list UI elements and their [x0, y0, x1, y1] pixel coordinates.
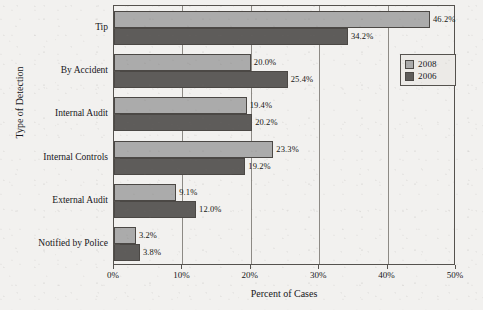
- bar-2008[interactable]: [114, 54, 251, 71]
- legend-label: 2008: [418, 59, 437, 69]
- bar-value-label: 23.3%: [276, 141, 298, 158]
- plot-area: 46.2%34.2%20.0%25.4%19.4%20.2%23.3%19.2%…: [113, 5, 455, 265]
- bar-value-label: 12.0%: [199, 201, 221, 218]
- bar-value-label: 20.0%: [254, 54, 276, 71]
- y-axis-tick: [114, 28, 120, 29]
- bar-2008[interactable]: [114, 227, 136, 244]
- y-axis-label-notified-by-police: Notified by Police: [38, 238, 108, 248]
- bar-2008[interactable]: [114, 141, 273, 158]
- x-axis-tick-label: 0%: [107, 270, 119, 280]
- bar-value-label: 46.2%: [433, 11, 455, 28]
- bars-layer: 46.2%34.2%20.0%25.4%19.4%20.2%23.3%19.2%…: [114, 6, 454, 264]
- bar-2008[interactable]: [114, 184, 176, 201]
- bar-2006[interactable]: [114, 244, 140, 261]
- x-axis-tick: [455, 265, 456, 269]
- bar-value-label: 3.2%: [139, 227, 157, 244]
- x-axis-tick-label: 40%: [378, 270, 395, 280]
- y-axis-tick: [114, 114, 120, 115]
- x-axis-title: Percent of Cases: [113, 288, 455, 299]
- legend-swatch-icon: [405, 60, 414, 69]
- bar-group: 3.2%3.8%: [114, 227, 454, 261]
- bar-value-label: 34.2%: [351, 28, 373, 45]
- legend-item-2006[interactable]: 2006: [405, 70, 451, 82]
- bar-chart-figure: Type of Detection TipBy AccidentInternal…: [0, 0, 483, 310]
- bar-2008[interactable]: [114, 97, 247, 114]
- y-axis-tick: [114, 201, 120, 202]
- bar-value-label: 20.2%: [255, 114, 277, 131]
- legend-swatch-icon: [405, 72, 414, 81]
- x-axis-tick: [181, 265, 182, 269]
- x-axis-tick-label: 20%: [242, 270, 259, 280]
- bar-value-label: 19.4%: [250, 97, 272, 114]
- x-axis-tick: [250, 265, 251, 269]
- y-axis-tick: [114, 244, 120, 245]
- bar-value-label: 3.8%: [143, 244, 161, 261]
- bar-2006[interactable]: [114, 28, 348, 45]
- bar-group: 9.1%12.0%: [114, 184, 454, 218]
- legend[interactable]: 20082006: [400, 54, 456, 86]
- bar-group: 46.2%34.2%: [114, 11, 454, 45]
- legend-label: 2006: [418, 71, 437, 81]
- bar-2006[interactable]: [114, 201, 196, 218]
- bar-value-label: 9.1%: [179, 184, 197, 201]
- y-axis-label-internal-audit: Internal Audit: [55, 108, 108, 118]
- x-axis-tick-label: 10%: [173, 270, 190, 280]
- bar-2008[interactable]: [114, 11, 430, 28]
- x-axis-tick: [387, 265, 388, 269]
- x-axis-tick: [113, 265, 114, 269]
- y-axis-label-external-audit: External Audit: [52, 195, 108, 205]
- y-axis-tick: [114, 158, 120, 159]
- y-axis-title: Type of Detection: [14, 38, 25, 168]
- bar-value-label: 25.4%: [291, 71, 313, 88]
- bar-value-label: 19.2%: [248, 158, 270, 175]
- x-axis-tick: [318, 265, 319, 269]
- bar-2006[interactable]: [114, 71, 288, 88]
- y-axis-label-by-accident: By Accident: [61, 65, 108, 75]
- bar-2006[interactable]: [114, 114, 252, 131]
- x-axis-tick-label: 30%: [310, 270, 327, 280]
- bar-2006[interactable]: [114, 158, 245, 175]
- y-axis-label-tip: Tip: [95, 22, 108, 32]
- y-axis-tick: [114, 71, 120, 72]
- legend-item-2008[interactable]: 2008: [405, 58, 451, 70]
- y-axis-label-internal-controls: Internal Controls: [43, 152, 108, 162]
- y-axis-category-labels: Type of Detection TipBy AccidentInternal…: [0, 5, 108, 265]
- x-axis-tick-label: 50%: [447, 270, 464, 280]
- x-axis-ticks: 0%10%20%30%40%50%: [113, 265, 455, 271]
- bar-group: 19.4%20.2%: [114, 97, 454, 131]
- bar-group: 23.3%19.2%: [114, 141, 454, 175]
